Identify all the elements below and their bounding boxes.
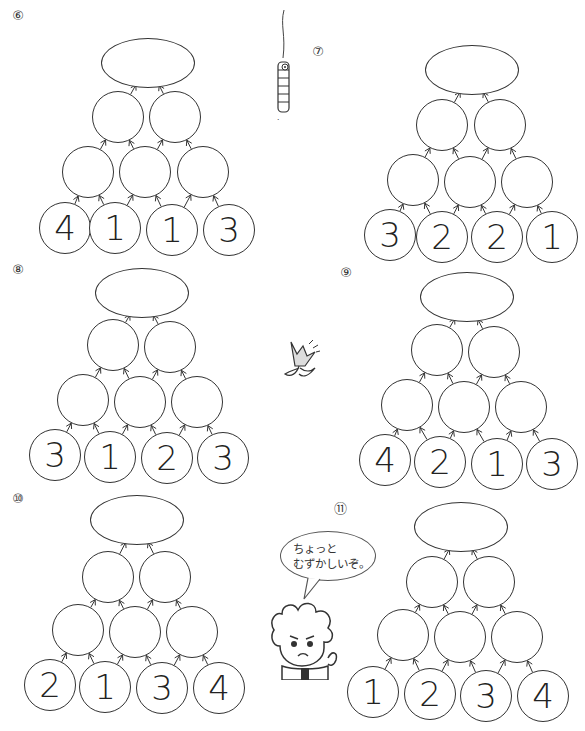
answer-circle[interactable] <box>114 376 166 428</box>
speech-bubble: ちょっと むずかしいぞ。 <box>280 531 376 581</box>
given-number-circle: 1 <box>89 202 141 254</box>
problem-number: ⑩ <box>10 491 26 507</box>
answer-circle[interactable] <box>52 604 104 656</box>
answer-circle[interactable] <box>434 611 486 663</box>
answer-circle[interactable] <box>491 611 543 663</box>
given-number-circle: 3 <box>136 662 188 714</box>
given-number-circle: 2 <box>414 436 466 488</box>
answer-circle[interactable] <box>377 609 429 661</box>
answer-circle[interactable] <box>463 556 515 608</box>
speech-line-1: ちょっと <box>293 542 375 557</box>
given-number-circle: 2 <box>24 659 76 711</box>
given-number-circle: 3 <box>203 204 255 256</box>
given-number-circle: 3 <box>29 429 81 481</box>
given-number-circle: 1 <box>471 438 523 490</box>
problem-number: ⑨ <box>338 265 354 281</box>
answer-circle[interactable] <box>139 551 191 603</box>
given-number-circle: 2 <box>141 432 193 484</box>
given-number-circle: 2 <box>471 211 523 263</box>
given-number-circle: 4 <box>517 670 569 722</box>
given-number-circle: 2 <box>416 211 468 263</box>
answer-circle[interactable] <box>406 556 458 608</box>
given-number-circle: 3 <box>526 438 578 490</box>
caterpillar-icon: ⋮ <box>270 10 300 120</box>
problem-number: ⑥ <box>10 8 26 24</box>
answer-circle[interactable] <box>149 91 201 143</box>
problem-number: ⑪ <box>332 501 348 517</box>
answer-ellipse[interactable] <box>420 272 514 322</box>
given-number-circle: 1 <box>79 661 131 713</box>
speech-line-2: むずかしいぞ。 <box>293 557 375 572</box>
answer-circle[interactable] <box>438 381 490 433</box>
svg-text:⋮: ⋮ <box>274 118 282 120</box>
boy-character-icon <box>268 600 343 680</box>
answer-circle[interactable] <box>62 146 114 198</box>
problem-number: ⑦ <box>310 44 326 60</box>
answer-circle[interactable] <box>387 154 439 206</box>
answer-circle[interactable] <box>474 99 526 151</box>
given-number-circle: 1 <box>84 431 136 483</box>
answer-circle[interactable] <box>381 379 433 431</box>
problem-number: ⑧ <box>10 262 26 278</box>
answer-circle[interactable] <box>444 156 496 208</box>
given-number-circle: 3 <box>364 209 416 261</box>
given-number-circle: 4 <box>359 434 411 486</box>
answer-circle[interactable] <box>411 324 463 376</box>
answer-ellipse[interactable] <box>90 495 184 545</box>
answer-circle[interactable] <box>468 326 520 378</box>
answer-ellipse[interactable] <box>95 268 189 318</box>
answer-circle[interactable] <box>501 156 553 208</box>
given-number-circle: 4 <box>39 202 91 254</box>
given-number-circle: 4 <box>193 662 245 714</box>
given-number-circle: 3 <box>460 670 512 722</box>
answer-circle[interactable] <box>109 606 161 658</box>
given-number-circle: 1 <box>347 666 399 718</box>
answer-circle[interactable] <box>171 376 223 428</box>
given-number-circle: 2 <box>404 668 456 720</box>
answer-circle[interactable] <box>92 91 144 143</box>
answer-circle[interactable] <box>495 381 547 433</box>
given-number-circle: 3 <box>197 432 249 484</box>
given-number-circle: 1 <box>526 211 578 263</box>
answer-circle[interactable] <box>166 606 218 658</box>
answer-circle[interactable] <box>87 319 139 371</box>
answer-circle[interactable] <box>57 374 109 426</box>
answer-circle[interactable] <box>144 321 196 373</box>
answer-ellipse[interactable] <box>101 38 195 88</box>
answer-ellipse[interactable] <box>414 502 508 552</box>
answer-circle[interactable] <box>416 99 468 151</box>
given-number-circle: 1 <box>146 204 198 256</box>
answer-circle[interactable] <box>177 146 229 198</box>
answer-ellipse[interactable] <box>425 45 519 95</box>
answer-circle[interactable] <box>119 146 171 198</box>
tulip-icon <box>283 338 325 383</box>
answer-circle[interactable] <box>82 551 134 603</box>
